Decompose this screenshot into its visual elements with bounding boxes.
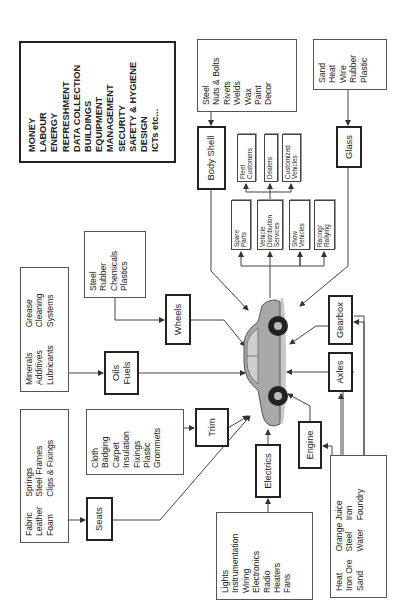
output-line: Distribution	[266, 203, 273, 247]
input-item: Grommets	[152, 416, 162, 468]
seats-inputs-box: Fabric Leather Foam Springs Steel Frames…	[20, 409, 69, 543]
wheels-node: Wheels	[165, 294, 191, 345]
input-item: Decor	[263, 46, 273, 105]
input-design: DESIGN	[139, 52, 150, 152]
trim-label: Trim	[207, 418, 218, 436]
wheels-label: Wheels	[173, 304, 184, 335]
general-inputs-box: MONEY LABOUR ENERGY REFRESHMENT DATA COL…	[19, 41, 176, 163]
output-line: Spare	[233, 203, 240, 247]
output-fleet-customers: Fleet Customers	[237, 134, 256, 182]
input-item: Instrumentation	[230, 519, 240, 593]
input-item: Grease	[24, 293, 34, 327]
fuels-label: Fuels	[122, 362, 133, 385]
car-icon	[238, 298, 292, 430]
input-item: Sand	[355, 559, 365, 591]
glass-inputs-box: Sand Heat Wire Rubber Plastic	[313, 39, 387, 90]
electrics-node: Electrics	[255, 444, 281, 498]
input-item: Fabric	[24, 507, 34, 536]
input-item: Steel	[88, 238, 98, 291]
output-line: Racing/	[316, 203, 323, 247]
body-shell-inputs-box: Steel Nuts & Bolts Rivets Welds Wax Pain…	[197, 39, 297, 112]
oils-label: Oils	[111, 365, 122, 381]
electrics-inputs-box: Lights Instrumentation Wiring Electronic…	[216, 512, 313, 600]
input-item: Iron	[344, 489, 354, 521]
input-item: Plastic	[359, 46, 369, 83]
input-item: Lights	[220, 519, 230, 593]
input-item: Badging	[100, 416, 110, 468]
input-item: Heat	[334, 559, 344, 591]
trim-inputs-box: Cloth Badging Carpet Insulation Fixings …	[86, 409, 184, 475]
input-item: Foam	[45, 507, 55, 536]
input-item: Plastic	[142, 416, 152, 468]
body-shell-label: Body Shell	[206, 136, 217, 181]
engine-label: Engine	[305, 430, 316, 459]
output-line: Vehicle	[259, 203, 266, 247]
input-item: Systems	[45, 293, 55, 327]
input-item: Springs	[24, 440, 34, 497]
engine-node: Engine	[298, 421, 322, 469]
input-item: Wire	[338, 46, 348, 83]
input-item: Wiring	[241, 519, 251, 593]
glass-node: Glass	[336, 126, 362, 168]
input-item: Fans	[282, 519, 292, 593]
input-item: Radio	[262, 519, 272, 593]
output-customized-vehicles: Customized Vehicles	[282, 134, 301, 182]
input-item: Steel	[201, 46, 211, 105]
input-icts: ICTs etc...	[150, 52, 161, 152]
output-line: Customized	[284, 137, 291, 179]
input-item: Wax	[243, 46, 253, 105]
input-item: Additives	[34, 345, 44, 385]
output-show-vehicles: Show Vehicles	[289, 200, 310, 250]
input-refreshment: REFRESHMENT	[61, 52, 72, 152]
input-item: Insulation	[121, 416, 131, 468]
glass-label: Glass	[344, 135, 355, 159]
input-buildings: BUILDINGS	[83, 52, 94, 152]
input-item: Plastics	[119, 238, 129, 291]
output-line: Fleet	[239, 137, 246, 179]
output-line: Vehicles	[298, 203, 305, 247]
input-safety-hygiene: SAFETY & HYGIENE	[128, 52, 139, 152]
input-item: Foundry	[355, 489, 365, 521]
gearbox-node: Gearbox	[328, 295, 353, 345]
input-item: Nuts & Bolts	[211, 46, 221, 105]
input-item: Carpet	[111, 416, 121, 468]
axles-label: Axles	[335, 361, 346, 384]
body-shell-node: Body Shell	[197, 126, 226, 190]
input-item: Heaters	[272, 519, 282, 593]
input-item: Welds	[232, 46, 242, 105]
output-line: Rallying	[323, 203, 330, 247]
oils-inputs-box: Minerals Additives Lubricants Grease Cle…	[20, 267, 69, 392]
input-item: Cloth	[90, 416, 100, 468]
seats-node: Seats	[86, 497, 113, 541]
input-item: Electronics	[251, 519, 261, 593]
input-item: Clips & Fixings	[45, 440, 55, 497]
output-racing-rallying: Racing/ Rallying	[314, 200, 335, 250]
input-item: Fixings	[132, 416, 142, 468]
input-item: Lubricants	[45, 345, 55, 385]
engine-axles-gearbox-inputs-box: Heat Iron Ore Sand Orange Juice Steel Wa…	[330, 455, 387, 598]
input-item: Rubber	[348, 46, 358, 83]
electrics-label: Electrics	[263, 453, 274, 488]
oils-fuels-node: Oils Fuels	[104, 351, 139, 395]
axles-node: Axles	[328, 352, 353, 392]
output-line: Dealers	[266, 137, 273, 179]
gearbox-label: Gearbox	[335, 302, 346, 338]
wheels-inputs-box: Steel Rubber Chemicals Plastics	[84, 231, 146, 298]
output-line: Show	[291, 203, 298, 247]
input-equipment: EQUIPMENT	[94, 52, 105, 152]
input-item: Heat	[327, 46, 337, 83]
input-item: Iron Ore	[344, 559, 354, 591]
input-security: SECURITY	[117, 52, 128, 152]
input-money: MONEY	[27, 52, 38, 152]
input-management: MANAGEMENT	[105, 52, 116, 152]
input-item: Rubber	[98, 238, 108, 291]
input-item: Leather	[34, 507, 44, 536]
input-labour: LABOUR	[38, 52, 49, 152]
output-spare-parts: Spare Parts	[231, 200, 251, 250]
input-item: Sand	[317, 46, 327, 83]
input-item: Steel Frames	[34, 440, 44, 497]
diagram-canvas: MONEY LABOUR ENERGY REFRESHMENT DATA COL…	[0, 0, 403, 616]
output-line: Customers	[246, 137, 253, 179]
input-item: Cleaning	[34, 293, 44, 327]
input-item: Minerals	[24, 345, 34, 385]
